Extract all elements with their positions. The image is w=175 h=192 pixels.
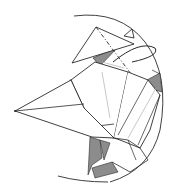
circular-frame-bottom-arc [58, 176, 108, 182]
fold-arrow-head [124, 29, 134, 38]
origami-diagram [0, 0, 175, 192]
shaded-bottom [92, 162, 118, 178]
diagram-svg [0, 0, 175, 192]
tip-dot [14, 110, 16, 112]
